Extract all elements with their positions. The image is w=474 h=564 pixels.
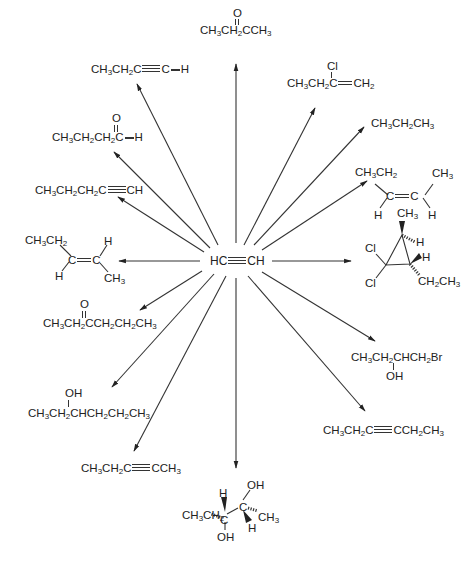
formula-text: CH	[351, 351, 368, 363]
hydroxyl-label: OH	[65, 388, 82, 400]
product-propane: CH3CH2CH3	[371, 118, 434, 130]
formula-text: CH	[372, 351, 389, 363]
formula-text: CH3CH2	[25, 235, 67, 247]
formula-text: CH	[108, 407, 125, 419]
triple-bond	[228, 257, 246, 264]
carbonyl-double-bond	[235, 19, 239, 25]
arrow-to-cis-pentene	[262, 181, 367, 250]
formula-text: H	[219, 488, 227, 500]
double-bond	[395, 194, 409, 198]
hc-label: HC	[210, 254, 227, 268]
formula-text: Cl	[365, 243, 376, 255]
formula-text: C	[386, 190, 394, 202]
formula-text: 2	[393, 171, 397, 180]
product-chlorobutene: Cl CH3CH2CCH2	[287, 78, 375, 90]
product-butyne: CH3CH2CCH	[91, 64, 189, 76]
formula-text: CH	[77, 184, 94, 196]
carbonyl-double-bond	[82, 311, 86, 318]
formula-text: C	[220, 515, 228, 527]
formula-text: CH	[423, 424, 440, 436]
formula-text: CH	[91, 63, 108, 75]
formula-text: CH	[344, 424, 361, 436]
single-bond	[331, 72, 332, 78]
formula-text: H	[428, 210, 436, 222]
arrow-to-propane	[254, 127, 364, 245]
triple-bond	[132, 464, 150, 471]
chlorine-label: Cl	[327, 61, 338, 73]
formula-text: CH	[46, 234, 63, 246]
formula-text: 3	[449, 172, 453, 181]
formula-text: 3	[152, 322, 156, 331]
formula-text: CHCH	[70, 407, 103, 419]
wedge-h	[410, 253, 422, 264]
arrow-to-bromohydrin	[262, 272, 375, 341]
double-bond	[77, 258, 91, 262]
double-bond	[338, 81, 352, 85]
formula-text: CH	[127, 184, 144, 196]
formula-text: H	[135, 131, 143, 143]
formula-text: CH	[129, 407, 146, 419]
formula-text: C	[239, 502, 247, 514]
product-bromohydrin: CH3CH2CHCH2Br OH	[351, 352, 442, 364]
formula-text: CH	[115, 317, 132, 329]
formula-text: C	[115, 131, 123, 143]
reaction-arrows	[0, 0, 474, 564]
formula-text: CH	[43, 317, 60, 329]
oxygen-label: O	[80, 299, 89, 311]
formula-text: C	[365, 424, 373, 436]
oxygen-label: O	[112, 113, 121, 125]
formula-text: H	[248, 523, 256, 535]
formula-text: CH	[112, 63, 129, 75]
arrow-to-butyne	[137, 84, 218, 245]
formula-text: CH	[418, 275, 435, 287]
formula-text: 3	[439, 429, 443, 438]
formula-text: CH3CH2	[182, 510, 224, 522]
formula-text: 3	[275, 516, 279, 525]
formula-text: CH	[200, 24, 217, 36]
formula-text: Br	[431, 351, 443, 363]
product-hexanol: OH CH3CH2CHCH2CH2CH3	[28, 408, 150, 420]
formula-text: C	[123, 462, 131, 474]
carbonyl-double-bond	[114, 125, 118, 132]
oxygen-label: O	[233, 8, 242, 20]
formula-text: CCH	[242, 24, 267, 36]
formula-text: CH	[81, 462, 98, 474]
formula-text: 3	[430, 122, 434, 131]
formula-text: CH	[104, 272, 121, 284]
arrow-to-hexyne	[248, 276, 365, 411]
formula-text: CH	[258, 511, 275, 523]
formula-text: CH	[203, 509, 220, 521]
single-bond	[171, 69, 180, 70]
formula-text: 3	[414, 212, 418, 221]
formula-text: C	[92, 254, 100, 266]
formula-text: CH	[287, 77, 304, 89]
triple-bond	[142, 65, 160, 72]
ch-label: CH	[247, 254, 264, 268]
formula-text: C	[133, 63, 141, 75]
formula-text: CH	[397, 207, 414, 219]
formula-text: CH2CH3	[418, 276, 460, 288]
arrow-to-pentyne1	[118, 197, 204, 252]
formula-text: H	[416, 237, 424, 249]
formula-text: H	[104, 236, 112, 248]
formula-text: CH	[64, 317, 81, 329]
arrow-to-hexanone	[140, 271, 202, 310]
formula-text: CH	[439, 275, 456, 287]
formula-text: H	[181, 63, 189, 75]
formula-text: CH	[413, 117, 430, 129]
formula-text: CH3	[104, 273, 125, 285]
formula-text: C	[68, 254, 76, 266]
formula-text: CHCH	[393, 351, 426, 363]
single-bond	[393, 363, 394, 370]
formula-text: OH	[247, 480, 264, 492]
product-butanone: O CH3CH2CCH3	[200, 25, 272, 37]
formula-text: CH	[355, 166, 372, 178]
formula-text: 3	[456, 280, 460, 289]
formula-text: Cl	[365, 278, 376, 290]
formula-text: CCH	[85, 317, 110, 329]
formula-text: 3	[146, 412, 150, 421]
formula-text: CH3	[397, 208, 418, 220]
arrow-to-hexanol	[112, 274, 214, 387]
formula-text: CH	[432, 167, 449, 179]
formula-text: CH	[353, 77, 370, 89]
